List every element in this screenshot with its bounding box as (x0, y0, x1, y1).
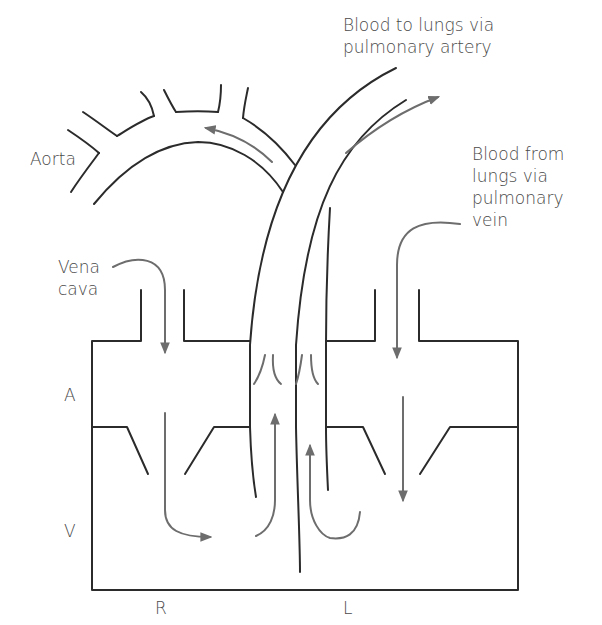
pulmonary-vein-arrow (397, 222, 460, 357)
vena-cava-arrow (113, 260, 165, 352)
label-line: cava (58, 278, 100, 300)
pulmonary-artery-vessel (250, 68, 438, 572)
left-ventricle-to-aorta-arrow (310, 446, 360, 538)
label-line: pulmonary (472, 187, 564, 209)
label-line: pulmonary artery (343, 36, 494, 58)
heart-chambers (92, 290, 518, 590)
heart-diagram-svg (0, 0, 602, 625)
left-side-label: L (343, 597, 352, 619)
ventricle-label: V (64, 520, 76, 542)
label-line: Blood to lungs via (343, 14, 494, 36)
pulmonary-artery-label: Blood to lungs via pulmonary artery (343, 14, 494, 58)
right-ventricle-to-artery-arrow (256, 415, 275, 536)
pulmonary-artery-flow-arrow (346, 97, 438, 153)
label-line: Vena (58, 256, 100, 278)
label-line: vein (472, 209, 564, 231)
heart-diagram: Blood to lungs via pulmonary artery Bloo… (0, 0, 602, 625)
atrium-label: A (64, 384, 76, 406)
label-line: Blood from (472, 143, 564, 165)
aorta-label: Aorta (30, 148, 76, 170)
aorta-vessel (68, 85, 295, 204)
label-line: lungs via (472, 165, 564, 187)
blood-flow-arrows (113, 222, 460, 538)
right-side-label: R (155, 597, 167, 619)
aorta-flow-arrow (206, 128, 272, 162)
right-heart-flow-arrow (165, 413, 210, 537)
pulmonary-vein-label: Blood from lungs via pulmonary vein (472, 143, 564, 231)
vena-cava-label: Vena cava (58, 256, 100, 300)
